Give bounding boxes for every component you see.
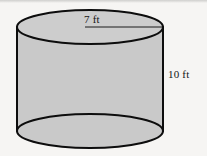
diameter-label: 7 ft — [84, 14, 100, 25]
cylinder-figure: 7 ft 10 ft — [0, 0, 207, 156]
height-label: 10 ft — [168, 69, 189, 80]
